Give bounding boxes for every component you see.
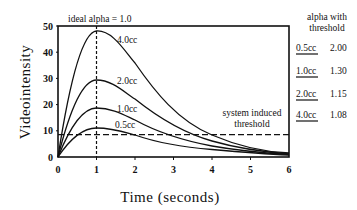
y-tick-50: 50 xyxy=(43,21,53,32)
x-tick-2: 2 xyxy=(133,164,138,175)
plot-frame xyxy=(58,26,289,157)
curve-label-0-5cc: 0.5cc xyxy=(115,120,135,130)
x-tick-1: 1 xyxy=(94,164,99,175)
chart: 50 40 30 20 10 0 0 1 2 3 4 5 6 Time (sec… xyxy=(0,0,357,210)
threshold-label-1: system induced xyxy=(223,108,282,118)
curve-label-4-0cc: 4.0cc xyxy=(117,35,137,45)
curve-label-2-0cc: 2.0cc xyxy=(117,76,137,86)
y-tick-30: 30 xyxy=(43,73,53,84)
y-tick-20: 20 xyxy=(43,99,53,110)
table-alpha-2-0: 1.15 xyxy=(330,89,347,99)
x-axis: 0 1 2 3 4 5 6 xyxy=(56,157,292,175)
y-tick-40: 40 xyxy=(43,47,53,58)
table-dose-1-0: 1.0cc xyxy=(296,66,316,76)
y-axis-title: Videointensity xyxy=(17,45,33,139)
y-axis: 50 40 30 20 10 0 xyxy=(43,21,58,163)
x-tick-5: 5 xyxy=(248,164,253,175)
x-axis-title: Time (seconds) xyxy=(120,189,219,206)
y-tick-10: 10 xyxy=(43,125,53,136)
curve-label-1-0cc: 1.0cc xyxy=(117,104,137,114)
table-dose-2-0: 2.0cc xyxy=(296,89,316,99)
curve-0-5cc xyxy=(58,128,289,157)
ideal-alpha-label: ideal alpha = 1.0 xyxy=(68,14,132,24)
threshold-label-2: threshold xyxy=(234,119,270,129)
table-dose-0-5: 0.5cc xyxy=(296,43,316,53)
table-alpha-1-0: 1.30 xyxy=(330,66,347,76)
table-dose-4-0: 4.0cc xyxy=(296,110,316,120)
x-tick-0: 0 xyxy=(56,164,61,175)
x-tick-6: 6 xyxy=(287,164,292,175)
x-tick-4: 4 xyxy=(210,164,215,175)
x-tick-3: 3 xyxy=(171,164,176,175)
table-alpha-0-5: 2.00 xyxy=(330,43,347,53)
y-tick-0: 0 xyxy=(48,152,53,163)
curve-4-0cc xyxy=(58,31,289,157)
table-header-1: alpha with xyxy=(307,12,347,22)
table-header-2: threshold xyxy=(309,23,345,33)
table-alpha-4-0: 1.08 xyxy=(330,110,347,120)
alpha-table: alpha with threshold 0.5cc 2.00 1.0cc 1.… xyxy=(296,12,347,121)
